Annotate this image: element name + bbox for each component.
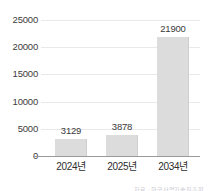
x-label-2025: 2025년 — [94, 162, 150, 172]
gridline-25000 — [41, 20, 200, 21]
axis-baseline — [33, 156, 200, 157]
bar-2025[interactable] — [106, 135, 138, 156]
y-tick-label-10000: 10000 — [0, 97, 38, 107]
x-label-2024: 2024년 — [43, 162, 99, 172]
y-tick-label-20000: 20000 — [0, 42, 38, 52]
bar-value-2034: 21900 — [157, 24, 189, 34]
bar-2034[interactable] — [157, 37, 189, 156]
y-tick-label-15000: 15000 — [0, 70, 38, 80]
bar-2024[interactable] — [55, 139, 87, 156]
bar-chart: 0 5000 10000 15000 20000 25000 3129 3878… — [0, 0, 208, 191]
bar-value-2025: 3878 — [106, 122, 138, 132]
y-tick-label-25000: 25000 — [0, 15, 38, 25]
source-note: 자료 : 한국산업기술진흥원 — [134, 185, 204, 191]
bar-value-2024: 3129 — [55, 126, 87, 136]
x-label-2034: 2034년 — [145, 162, 201, 172]
y-tick-label-5000: 5000 — [0, 124, 38, 134]
